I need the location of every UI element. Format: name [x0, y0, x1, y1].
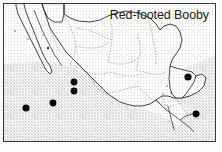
occurrence-dot [50, 100, 57, 107]
minor-map-mark [170, 92, 171, 93]
occurrence-dot [71, 79, 78, 86]
occurrence-dot [22, 104, 29, 111]
distribution-map-figure: Red-footed Booby [0, 0, 222, 152]
minor-map-mark [14, 30, 16, 32]
occurrence-dot [193, 111, 200, 118]
map-canvas [4, 4, 215, 141]
occurrence-dot [71, 88, 78, 95]
occurrence-dot [184, 73, 191, 80]
minor-map-mark [27, 38, 28, 39]
minor-map-mark [162, 93, 163, 94]
minor-map-mark [42, 34, 43, 35]
map-title: Red-footed Booby [110, 8, 209, 22]
minor-map-mark [166, 85, 168, 87]
map-frame: Red-footed Booby [3, 3, 216, 142]
minor-map-mark [47, 47, 49, 49]
